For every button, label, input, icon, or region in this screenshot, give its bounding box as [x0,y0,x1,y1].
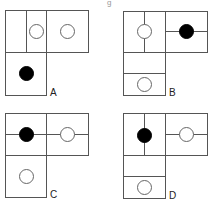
open-circle-icon [61,25,75,39]
open-circle-icon [180,128,194,142]
open-circle-icon [61,128,75,142]
option-a-label: A [50,87,57,98]
filled-circle-icon [138,129,152,143]
option-c-figure[interactable]: C [6,114,89,201]
filled-circle-icon [180,25,194,39]
open-circle-icon [138,181,152,195]
option-d-figure[interactable]: D [124,114,208,202]
open-circle-icon [30,25,44,39]
open-circle-icon [138,78,152,92]
figure-options-canvas: g A B C D [0,0,212,202]
option-d-label: D [169,190,176,201]
open-circle-icon [20,170,34,184]
option-c-label: C [50,189,57,200]
option-b-figure[interactable]: B [124,12,208,99]
open-circle-icon [138,25,152,39]
option-a-figure[interactable]: A [6,11,89,99]
filled-circle-icon [20,128,34,142]
cut-off-title-fragment: g [107,0,111,7]
option-b-label: B [169,87,176,98]
filled-circle-icon [20,67,34,81]
